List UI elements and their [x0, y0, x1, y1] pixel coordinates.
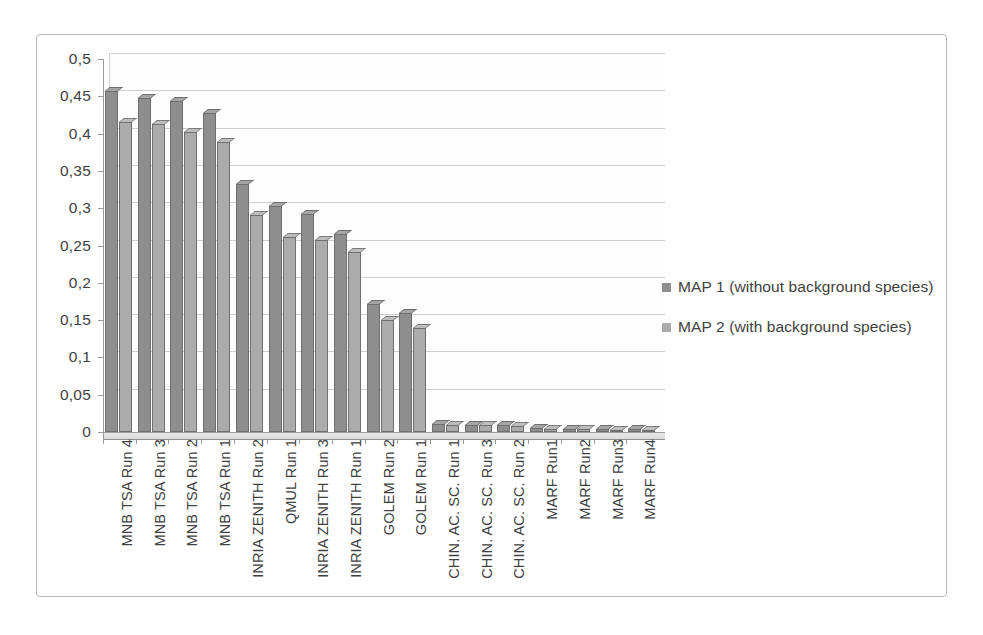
bar	[301, 214, 314, 432]
bar	[334, 234, 347, 432]
bar	[138, 98, 151, 432]
legend-item: MAP 2 (with background species)	[662, 318, 942, 336]
bar	[315, 240, 328, 432]
x-axis-category-label: INRIA ZENITH Run 3	[315, 439, 331, 578]
bar-face	[184, 132, 197, 432]
bar-group	[563, 59, 594, 432]
bar-face	[283, 237, 296, 432]
bar	[530, 428, 543, 432]
bar-top-face	[348, 248, 366, 252]
bar	[544, 429, 557, 432]
x-axis-category-label: MNB TSA Run 3	[152, 439, 168, 546]
y-axis-tick-label: 0,05	[60, 386, 91, 404]
bar-top-face	[367, 300, 385, 304]
bar	[413, 328, 426, 432]
bar-face	[446, 425, 459, 432]
x-axis-category-label: CHIN. AC. SC. Run 2	[511, 439, 527, 579]
bar-top-face	[217, 138, 235, 142]
bar-top-face	[301, 210, 319, 214]
bar-group	[497, 59, 528, 432]
bar-group	[465, 59, 496, 432]
bar-face	[269, 206, 282, 432]
bar-group	[301, 59, 332, 432]
bar	[511, 426, 524, 432]
bar-top-face	[170, 97, 188, 101]
bar-top-face	[577, 425, 595, 429]
bar-top-face	[105, 87, 123, 91]
bar-face	[315, 240, 328, 432]
bar-top-face	[138, 94, 156, 98]
bar	[465, 425, 478, 432]
x-axis-category-label: MNB TSA Run 2	[184, 439, 200, 546]
bar	[399, 313, 412, 432]
bars-layer	[103, 59, 659, 432]
y-axis-tick-label: 0,2	[69, 274, 91, 292]
bar-face	[479, 425, 492, 432]
bar	[577, 429, 590, 432]
bar-face	[170, 101, 183, 432]
bar-top-face	[381, 316, 399, 320]
x-axis-category-label: QMUL Run 1	[283, 439, 299, 524]
chart-plot-wrapper: 00,050,10,150,20,250,30,350,40,450,5 MNB…	[37, 35, 946, 596]
bar-face	[465, 425, 478, 432]
bar	[236, 184, 249, 432]
bar-top-face	[315, 236, 333, 240]
bar-top-face	[479, 421, 497, 425]
bar-top-face	[334, 230, 352, 234]
bar-group	[399, 59, 430, 432]
bar	[497, 425, 510, 432]
bar-face	[530, 428, 543, 432]
bar-top-face	[236, 180, 254, 184]
bar-top-face	[446, 421, 464, 425]
plot-floor	[103, 432, 665, 439]
y-axis-tick-label: 0	[82, 423, 91, 441]
bar	[642, 430, 655, 432]
bar	[479, 425, 492, 432]
bar-face	[413, 328, 426, 432]
x-axis-category-label: MNB TSA Run 4	[119, 439, 135, 546]
bar-face	[105, 91, 118, 432]
bar	[152, 124, 165, 432]
bar-group	[530, 59, 561, 432]
legend-item: MAP 1 (without background species)	[662, 278, 942, 296]
bar-top-face	[413, 324, 431, 328]
bar-face	[628, 429, 641, 432]
x-axis-category-label: GOLEM Run 1	[413, 439, 429, 535]
x-axis-category-label: INRIA ZENITH Run 2	[250, 439, 266, 578]
bar	[203, 113, 216, 432]
bar-group	[334, 59, 365, 432]
bar-face	[367, 304, 380, 432]
bar-top-face	[152, 120, 170, 124]
bar	[446, 425, 459, 432]
x-axis-category-label: MARF Run4	[642, 439, 658, 520]
x-axis-category-label: MARF Run3	[610, 439, 626, 520]
bar	[610, 430, 623, 432]
bar-face	[381, 320, 394, 432]
x-axis-category-label: CHIN. AC. SC. Run 1	[446, 439, 462, 579]
bar	[170, 101, 183, 432]
x-axis-category-label: CHIN. AC. SC. Run 3	[479, 439, 495, 579]
chart-frame: 00,050,10,150,20,250,30,350,40,450,5 MNB…	[36, 34, 947, 597]
y-axis-tick-labels: 00,050,10,150,20,250,30,350,40,450,5	[39, 54, 91, 432]
bar-top-face	[399, 309, 417, 313]
bar-face	[596, 429, 609, 432]
gridline	[109, 53, 665, 54]
bar-face	[497, 425, 510, 432]
bar	[250, 215, 263, 432]
bar-face	[544, 429, 557, 432]
y-tick-mark	[98, 432, 103, 433]
bar-face	[348, 252, 361, 432]
bar-group	[105, 59, 136, 432]
x-axis-category-label: MARF Run1	[544, 439, 560, 520]
y-axis-tick-label: 0,15	[60, 311, 91, 329]
bar-group	[269, 59, 300, 432]
bar	[184, 132, 197, 432]
bar-face	[432, 424, 445, 432]
bar-face	[642, 430, 655, 432]
x-axis-category-labels: MNB TSA Run 4MNB TSA Run 3MNB TSA Run 2M…	[103, 439, 665, 589]
chart-legend: MAP 1 (without background species)MAP 2 …	[662, 278, 942, 358]
bar-face	[217, 142, 230, 432]
y-axis-tick-label: 0,45	[60, 87, 91, 105]
bar-face	[511, 426, 524, 432]
bar-face	[236, 184, 249, 432]
